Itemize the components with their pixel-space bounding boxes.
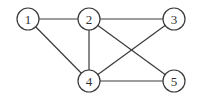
node-1: 1 <box>17 8 39 30</box>
edge-1-4 <box>28 19 89 81</box>
node-label: 1 <box>25 12 32 27</box>
graph-diagram: 12345 <box>0 0 198 98</box>
nodes-layer: 12345 <box>17 8 185 92</box>
edges-layer <box>28 19 174 81</box>
node-label: 2 <box>86 12 93 27</box>
node-label: 3 <box>171 12 178 27</box>
node-4: 4 <box>78 70 100 92</box>
node-2: 2 <box>78 8 100 30</box>
node-3: 3 <box>163 8 185 30</box>
node-label: 4 <box>86 74 93 89</box>
node-5: 5 <box>163 70 185 92</box>
node-label: 5 <box>171 74 178 89</box>
